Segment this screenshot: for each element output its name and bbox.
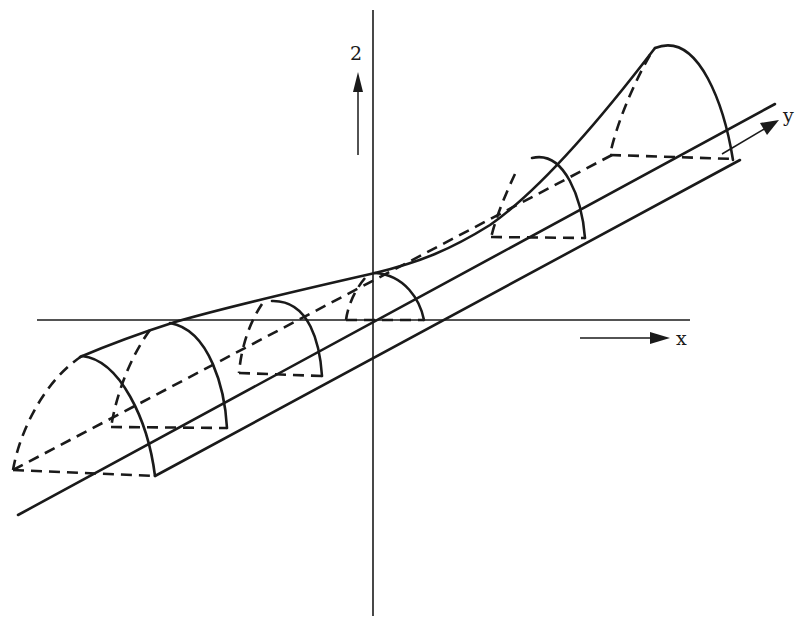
z-indicator: 2 (350, 42, 363, 155)
arch-front (82, 356, 155, 476)
x-indicator: x (580, 327, 687, 349)
arch-base (239, 373, 322, 376)
arch-base (111, 427, 227, 428)
axes (18, 10, 775, 616)
cross-section-3 (239, 301, 322, 376)
x-axis-label: x (676, 327, 687, 349)
tube-envelope (13, 48, 740, 476)
tube-diagram: 2 x y (0, 0, 801, 632)
arch-front (655, 45, 733, 160)
x-arrow-icon (650, 332, 670, 344)
cross-section-5 (491, 157, 585, 238)
y-axis-line (18, 104, 775, 515)
y-axis-label: y (782, 104, 794, 126)
arch-front (375, 273, 424, 320)
arch-base (491, 237, 585, 238)
upper-envelope (80, 48, 655, 357)
cross-section-4 (346, 273, 424, 320)
arch-back (610, 55, 650, 155)
arch-front (170, 323, 227, 428)
arch-base (13, 470, 155, 476)
arch-back (346, 278, 365, 320)
arch-back (239, 304, 262, 373)
z-arrow-icon (353, 72, 363, 92)
z-axis-label: 2 (350, 42, 362, 64)
arch-back (491, 174, 515, 238)
y-indicator: y (722, 104, 794, 154)
hidden-back-edge (13, 155, 612, 470)
arch-back (111, 330, 150, 428)
cross-section-6 (610, 45, 736, 160)
lower-edge (155, 160, 740, 476)
arch-front (532, 157, 585, 238)
y-arrow-icon (760, 120, 779, 135)
